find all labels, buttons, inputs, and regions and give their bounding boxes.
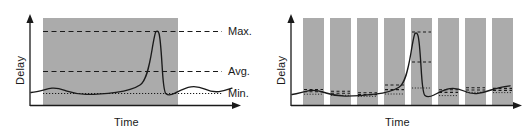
right-x-axis-label: Time [385, 116, 410, 128]
window-3-shade [357, 18, 378, 105]
left-x-axis-label: Time [114, 116, 139, 128]
x-axis-arrowhead [513, 102, 522, 109]
left-avg-label: Avg. [228, 65, 250, 77]
left-max-label: Max. [228, 25, 252, 37]
window-2-shade [330, 18, 351, 105]
y-axis-arrowhead [287, 14, 294, 23]
left-y-axis-label: Delay [14, 56, 26, 85]
delay-time-figure: Delay Time Max. Avg. Min. [0, 0, 530, 136]
right-x-axis [291, 102, 522, 109]
window-8-shade [492, 18, 513, 105]
right-shaded-windows [303, 18, 513, 105]
global-window-panel: Delay Time Max. Avg. Min. [0, 0, 265, 136]
right-y-axis [287, 14, 294, 106]
sliding-window-panel: Delay Time [265, 0, 530, 136]
y-axis-arrowhead [26, 14, 33, 23]
x-axis-arrowhead [232, 102, 241, 109]
left-min-label: Min. [228, 87, 249, 99]
right-y-axis-label: Delay [275, 56, 287, 85]
